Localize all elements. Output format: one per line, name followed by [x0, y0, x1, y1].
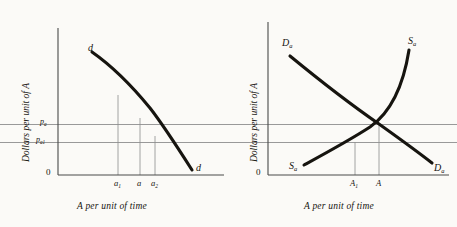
curve-market-demand: [290, 56, 432, 163]
curve-label-Da-end-sub: a: [441, 167, 444, 174]
price-label-pa1: pa1: [36, 136, 45, 144]
tick-label-A: A: [376, 179, 381, 188]
curve-label-Sa-end-sub: a: [413, 40, 416, 47]
tick-label-a2: a2: [151, 179, 158, 188]
price-label-pa1-sub: a1: [40, 139, 45, 145]
drop-lines-market: [355, 124, 379, 175]
tick-label-A1-sub: 1: [355, 183, 358, 189]
price-label-pa-sub: a: [44, 121, 47, 127]
curve-label-d-end: d: [196, 163, 201, 173]
curve-label-Sa-start-sub: a: [294, 165, 297, 172]
tick-label-A1: A1: [350, 179, 358, 188]
shared-price-lines: [0, 125, 457, 143]
tick-label-a-base: a: [137, 178, 141, 188]
tick-label-a1: a1: [114, 179, 121, 188]
curve-label-Da-start-sub: a: [289, 42, 292, 49]
panel-market: [268, 22, 449, 175]
economics-figure: Dollars per unit of A A per unit of time…: [0, 0, 457, 227]
curve-label-Sa-start: Sa: [289, 161, 297, 171]
tick-label-a: a: [137, 179, 141, 188]
y-axis-title-individual: Dollars per unit of A: [22, 83, 32, 162]
curve-individual-demand: [92, 52, 192, 170]
price-label-pa: pa: [40, 118, 47, 126]
curve-label-Sa-end: Sa: [408, 36, 416, 46]
panel-individual: [58, 28, 224, 175]
curve-label-Da-start: Da: [282, 38, 292, 48]
origin-label-individual: 0: [46, 168, 51, 177]
x-axis-title-market: A per unit of time: [304, 202, 374, 212]
tick-label-A-base: A: [376, 178, 381, 188]
curve-label-Da-end: Da: [434, 163, 444, 173]
origin-label-market: 0: [256, 168, 261, 177]
tick-label-a1-sub: 1: [118, 183, 121, 189]
tick-label-a2-sub: 2: [155, 183, 158, 189]
curve-label-d-start: d: [88, 43, 93, 53]
y-axis-title-market: Dollars per unit of A: [250, 83, 260, 162]
x-axis-title-individual: A per unit of time: [77, 202, 147, 212]
figure-canvas: [0, 0, 457, 227]
